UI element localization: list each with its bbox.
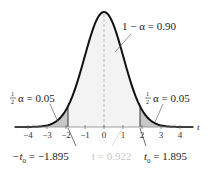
right-tail-leader	[155, 104, 163, 122]
svg-text:2: 2	[146, 99, 149, 105]
svg-text:α = 0.05: α = 0.05	[18, 92, 55, 104]
axis-label-t: t	[197, 122, 200, 132]
svg-text:α = 0.05: α = 0.05	[153, 92, 190, 104]
svg-text:2: 2	[11, 99, 14, 105]
center-area-label: 1 − α = 0.90	[122, 20, 176, 32]
tick-label: 1	[121, 130, 126, 140]
tick-label: −3	[42, 130, 52, 140]
left-critical-label: −t0 = −1.895	[12, 150, 69, 165]
svg-text:1: 1	[11, 91, 14, 97]
tick-label: 3	[159, 130, 164, 140]
right-tail-label: 1 2 α = 0.05	[145, 91, 190, 105]
left-tail-label: 1 2 α = 0.05	[10, 91, 55, 105]
t-distribution-diagram: −4−3−2−101234 t 1 − α = 0.90 1 2 α = 0.0…	[0, 0, 211, 169]
svg-text:1: 1	[146, 91, 149, 97]
tick-label: 4	[178, 130, 183, 140]
test-stat-label: t = 0.922	[92, 150, 132, 162]
right-critical-label: t0 = 1.895	[144, 150, 188, 165]
left-tail-leader	[50, 104, 58, 122]
tick-label: 0	[102, 130, 107, 140]
tick-label: −1	[80, 130, 90, 140]
tick-label: −4	[23, 130, 33, 140]
